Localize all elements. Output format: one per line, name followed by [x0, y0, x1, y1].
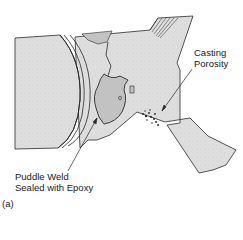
- puddle-weld-label: Puddle Weld Sealed with Epoxy: [15, 172, 93, 193]
- weld-spot: [130, 86, 134, 93]
- casting-porosity-label: Casting Porosity: [194, 48, 228, 69]
- puddle-weld-line-1: Puddle Weld: [15, 172, 93, 183]
- casting-porosity-line-1: Casting: [194, 48, 228, 59]
- puddle-weld-line-2: Sealed with Epoxy: [15, 183, 93, 194]
- casting-porosity-line-2: Porosity: [194, 59, 228, 70]
- panel-label: (a): [2, 199, 14, 210]
- pipe-body: [15, 35, 80, 149]
